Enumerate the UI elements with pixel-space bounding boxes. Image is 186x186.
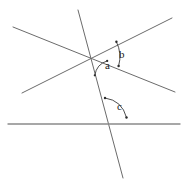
angle-arc-a-endpoint-start [94,74,96,76]
angle-arc-c-group [104,97,128,119]
angle-arc-b-endpoint-end [117,65,119,67]
angle-arc-c-endpoint-start [104,97,106,99]
line-shallow-descending [13,27,175,92]
angle-arc-c [105,98,127,118]
lines-group [8,10,180,178]
figure-canvas [0,0,186,186]
angle-arc-b-endpoint-start [115,41,117,43]
line-steep-transversal [78,10,123,178]
angle-arc-a-endpoint-end [106,60,108,62]
geometry-figure: a b c [0,0,186,186]
angle-arc-a [95,61,107,75]
angle-arc-c-endpoint-end [125,116,127,118]
